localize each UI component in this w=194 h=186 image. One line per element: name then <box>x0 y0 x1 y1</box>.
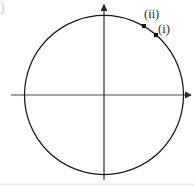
y-axis-arrow-icon <box>101 4 108 12</box>
data-point-ii-label: (ii) <box>144 8 159 21</box>
data-point-i-label: (i) <box>158 23 170 36</box>
x-axis-arrow-icon <box>185 92 192 99</box>
data-point-ii-marker <box>142 24 146 28</box>
unit-circle-figure: ) (ii) (i) <box>0 0 194 186</box>
